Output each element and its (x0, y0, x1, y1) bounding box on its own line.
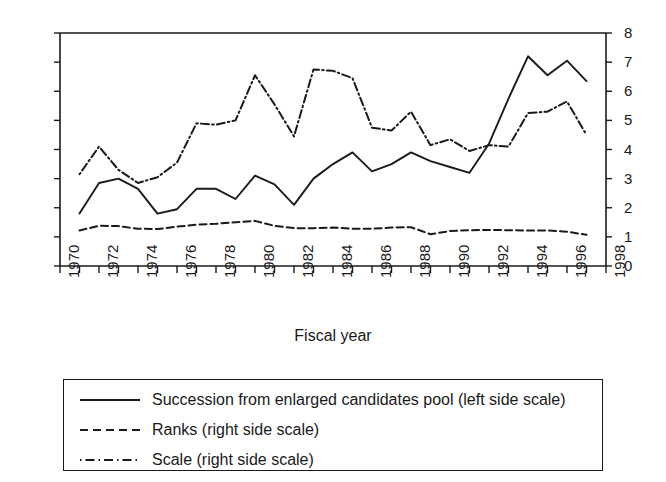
x-axis-tick-label: 1988 (417, 245, 432, 278)
legend-swatch-dashdot (78, 453, 142, 467)
right-axis-tick-label: 1 (624, 229, 632, 244)
series-line-0 (80, 56, 587, 213)
x-axis-tick-label: 1976 (183, 245, 198, 278)
series-line-2 (80, 69, 587, 183)
right-axis-tick-label: 3 (624, 171, 632, 186)
data-series-layer (80, 56, 587, 235)
plot-area: 0246810121416 012345678 1970197219741976… (0, 0, 666, 360)
legend-item: Succession from enlarged candidates pool… (64, 387, 602, 413)
x-axis-tick-label: 1986 (378, 245, 393, 278)
chart-figure: 0246810121416 012345678 1970197219741976… (0, 0, 666, 482)
right-axis-tick-label: 4 (624, 142, 632, 157)
x-axis-tick-label: 1974 (144, 245, 159, 278)
legend-label: Ranks (right side scale) (152, 421, 319, 439)
legend-swatch-dashed (78, 423, 142, 437)
legend-label: Succession from enlarged candidates pool… (152, 391, 566, 409)
x-axis-ticks (60, 266, 606, 273)
plot-svg (0, 0, 666, 360)
x-axis-title: Fiscal year (0, 327, 666, 345)
legend-swatch-solid (78, 393, 142, 407)
right-axis-tick-label: 7 (624, 54, 632, 69)
x-axis-tick-label: 1996 (573, 245, 588, 278)
legend-item: Ranks (right side scale) (64, 417, 602, 443)
right-axis-ticks (606, 33, 612, 266)
right-axis-tick-label: 6 (624, 83, 632, 98)
x-axis-tick-label: 1970 (66, 245, 81, 278)
x-axis-tick-label: 1990 (456, 245, 471, 278)
x-axis-tick-label: 1980 (261, 245, 276, 278)
x-axis-tick-label: 1978 (222, 245, 237, 278)
x-axis-tick-label: 1972 (105, 245, 120, 278)
chart-legend: Succession from enlarged candidates pool… (63, 379, 603, 471)
axis-frame (60, 33, 606, 266)
series-line-1 (80, 221, 587, 235)
x-axis-tick-label: 1982 (300, 245, 315, 278)
right-axis-tick-label: 2 (624, 200, 632, 215)
x-axis-tick-label: 1994 (534, 245, 549, 278)
right-axis-tick-label: 5 (624, 112, 632, 127)
left-axis-ticks (54, 33, 60, 266)
x-axis-tick-label: 1992 (495, 245, 510, 278)
x-axis-tick-label: 1984 (339, 245, 354, 278)
right-axis-tick-label: 8 (624, 25, 632, 40)
legend-label: Scale (right side scale) (152, 451, 314, 469)
legend-item: Scale (right side scale) (64, 447, 602, 473)
x-axis-tick-label: 1998 (612, 245, 627, 278)
